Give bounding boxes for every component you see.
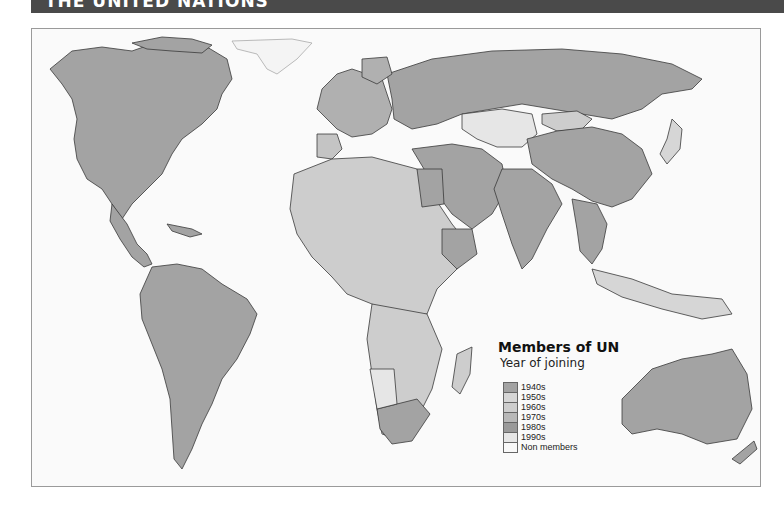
region-north-america	[50, 43, 232, 219]
world-map-graphic	[32, 29, 760, 486]
legend-swatch	[503, 402, 518, 412]
legend-subtitle: Year of joining	[500, 356, 619, 370]
region-indonesia	[592, 269, 732, 319]
legend-label: 1960s	[521, 402, 546, 412]
legend-label: 1980s	[521, 422, 546, 432]
legend-title: Members of UN	[498, 339, 619, 355]
legend-item-1980s: 1980s	[503, 422, 619, 432]
region-australia	[622, 349, 752, 444]
legend-swatch	[503, 432, 518, 442]
legend-swatch	[503, 382, 518, 392]
region-greenland	[232, 39, 312, 74]
legend-item-1960s: 1960s	[503, 402, 619, 412]
legend-label: 1970s	[521, 412, 546, 422]
legend-swatch	[503, 422, 518, 432]
region-new-zealand	[732, 441, 757, 464]
legend-item-1940s: 1940s	[503, 382, 619, 392]
legend-label: Non members	[521, 442, 578, 452]
region-central-asia	[462, 109, 537, 147]
legend-swatch	[503, 442, 518, 453]
legend-item-1970s: 1970s	[503, 412, 619, 422]
region-central-america	[110, 204, 152, 267]
region-iberia	[317, 134, 342, 159]
legend-label: 1950s	[521, 392, 546, 402]
region-southeast-asia	[572, 199, 607, 264]
legend-list: 1940s 1950s 1960s 1970s 1980s 1990s	[503, 382, 619, 452]
legend-label: 1990s	[521, 432, 546, 442]
page-title: THE UNITED NATIONS	[45, 0, 269, 11]
region-japan	[660, 119, 682, 164]
legend-item-1950s: 1950s	[503, 392, 619, 402]
world-map: Members of UN Year of joining 1940s 1950…	[31, 28, 761, 487]
legend-label: 1940s	[521, 382, 546, 392]
header-bar: THE UNITED NATIONS	[31, 0, 784, 13]
legend-swatch	[503, 392, 518, 402]
legend-item-non-members: Non members	[503, 442, 619, 452]
region-egypt	[417, 169, 444, 207]
legend-swatch	[503, 412, 518, 422]
region-madagascar	[452, 347, 472, 394]
legend-item-1990s: 1990s	[503, 432, 619, 442]
region-caribbean	[167, 224, 202, 237]
region-india	[494, 169, 562, 269]
region-south-america	[140, 264, 257, 469]
map-legend: Members of UN Year of joining 1940s 1950…	[498, 339, 619, 452]
region-namibia	[370, 369, 397, 409]
